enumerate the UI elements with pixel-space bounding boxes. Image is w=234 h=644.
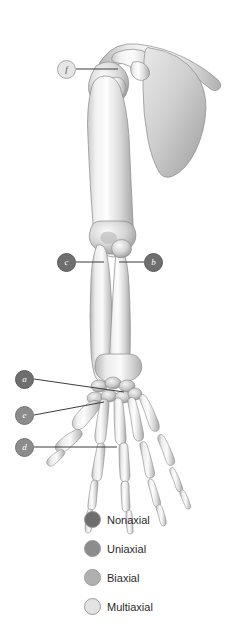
radial-head <box>112 240 132 258</box>
legend: Nonaxial Uniaxial Biaxial Multiaxial <box>84 505 224 621</box>
legend-swatch-nonaxial <box>84 511 101 528</box>
metacarpal-bones <box>72 394 159 445</box>
legend-item-biaxial: Biaxial <box>84 563 224 592</box>
legend-item-uniaxial: Uniaxial <box>84 534 224 563</box>
marker-c[interactable]: c <box>57 253 76 272</box>
legend-swatch-uniaxial <box>84 540 101 557</box>
humerus-bone <box>88 76 136 257</box>
marker-a[interactable]: a <box>15 370 34 389</box>
legend-label-uniaxial: Uniaxial <box>107 543 146 555</box>
legend-swatch-biaxial <box>84 569 101 586</box>
legend-label-nonaxial: Nonaxial <box>107 514 150 526</box>
thumb-distal-phalanx <box>47 450 65 467</box>
legend-swatch-multiaxial <box>84 598 101 615</box>
marker-b[interactable]: b <box>144 253 163 272</box>
legend-item-multiaxial: Multiaxial <box>84 592 224 621</box>
marker-e[interactable]: e <box>15 406 34 425</box>
marker-f[interactable]: f <box>57 60 76 79</box>
thumb-proximal-phalanx <box>55 429 82 453</box>
legend-label-multiaxial: Multiaxial <box>107 601 153 613</box>
legend-label-biaxial: Biaxial <box>107 572 139 584</box>
forearm-bones <box>90 240 142 383</box>
marker-d[interactable]: d <box>15 438 34 457</box>
legend-item-nonaxial: Nonaxial <box>84 505 224 534</box>
anatomy-figure: f c b a e d Nonaxial Uniaxial Biaxial Mu… <box>0 0 234 644</box>
